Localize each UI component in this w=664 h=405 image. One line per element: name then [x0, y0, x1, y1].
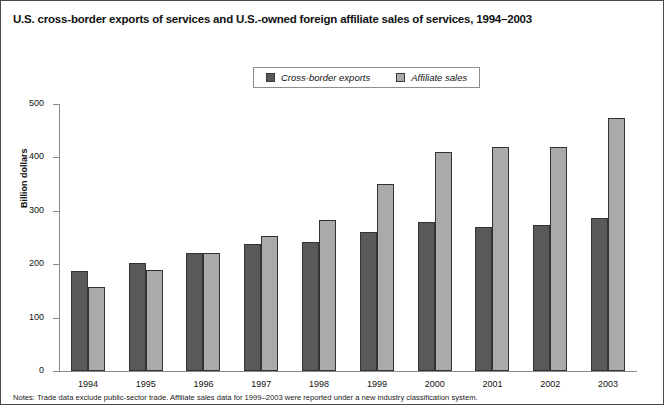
bar [550, 147, 567, 371]
y-axis-tick-label: 200 [29, 258, 44, 268]
x-axis-tick-label: 1995 [117, 379, 175, 389]
bar [88, 287, 105, 371]
bar [492, 147, 509, 371]
x-axis-line [59, 371, 637, 372]
bar [71, 271, 88, 371]
chart-legend: Cross-border exports Affiliate sales [253, 67, 480, 88]
bar [418, 222, 435, 371]
bar-group [290, 220, 348, 371]
y-axis-title: Billion dollars [19, 148, 29, 208]
y-axis-tick: 300 [53, 211, 59, 212]
bar-group [232, 236, 290, 371]
x-axis-tick-label: 2001 [464, 379, 522, 389]
bar [319, 220, 336, 371]
bar [475, 227, 492, 371]
bar [591, 218, 608, 371]
legend-item-cross-border-exports: Cross-border exports [266, 72, 370, 83]
bar-group [521, 147, 579, 371]
y-axis-tick: 400 [53, 157, 59, 158]
bar-group [348, 184, 406, 371]
y-axis-tick-label: 400 [29, 151, 44, 161]
y-axis-tick: 500 [53, 104, 59, 105]
bar [244, 244, 261, 371]
bar [608, 118, 625, 371]
x-axis-tick-label: 1997 [232, 379, 290, 389]
legend-label: Cross-border exports [281, 72, 370, 83]
chart-notes: Notes: Trade data exclude public-sector … [13, 393, 653, 403]
bar [360, 232, 377, 371]
bar [186, 253, 203, 371]
bar-group [59, 271, 117, 371]
chart-figure: U.S. cross-border exports of services an… [0, 0, 664, 405]
x-axis-tick-label: 1996 [175, 379, 233, 389]
bar-group [406, 152, 464, 371]
bar [146, 270, 163, 371]
bar [302, 242, 319, 371]
bar [377, 184, 394, 371]
x-axis-tick-label: 1994 [59, 379, 117, 389]
legend-swatch-icon [396, 73, 405, 82]
bar-group [579, 118, 637, 371]
legend-label: Affiliate sales [411, 72, 467, 83]
y-axis-tick: 0 [53, 371, 59, 372]
y-axis-tick-label: 100 [29, 312, 44, 322]
bar-group [175, 253, 233, 371]
plot-area: 0100200300400500 19941995199619971998199… [59, 104, 637, 371]
x-axis-tick-label: 2000 [406, 379, 464, 389]
x-axis-tick-label: 2002 [521, 379, 579, 389]
bar [533, 225, 550, 371]
bar [261, 236, 278, 371]
x-axis-tick-label: 1998 [290, 379, 348, 389]
bar-group [117, 263, 175, 371]
x-axis-tick-label: 1999 [348, 379, 406, 389]
legend-item-affiliate-sales: Affiliate sales [396, 72, 467, 83]
y-axis-tick-label: 500 [29, 98, 44, 108]
bar [203, 253, 220, 371]
legend-swatch-icon [266, 73, 275, 82]
bar [129, 263, 146, 371]
y-axis-tick: 200 [53, 264, 59, 265]
page-title: U.S. cross-border exports of services an… [13, 13, 532, 25]
bar-group [464, 147, 522, 371]
y-axis-tick-label: 300 [29, 205, 44, 215]
y-axis-tick-label: 0 [39, 365, 44, 375]
bar [435, 152, 452, 371]
x-axis-tick-label: 2003 [579, 379, 637, 389]
